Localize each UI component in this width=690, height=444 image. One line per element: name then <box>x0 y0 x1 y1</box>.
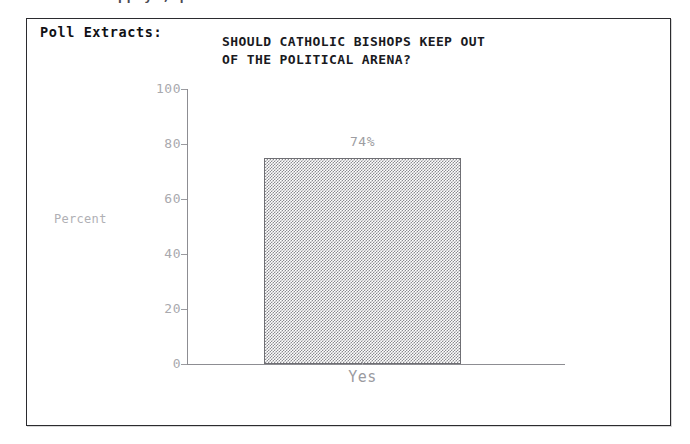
y-tick-label-20: 20 <box>141 301 181 316</box>
bar-value-label-yes: 74% <box>264 134 461 149</box>
plot-area: Percent 100 80 60 40 20 0 74% <box>0 0 690 444</box>
y-tick-mark-0 <box>181 364 187 365</box>
y-axis-line <box>187 89 188 365</box>
y-tick-label-0: 0 <box>141 356 181 371</box>
y-tick-0: 0 <box>129 364 181 365</box>
y-tick-mark-80 <box>181 144 187 145</box>
y-tick-40: 40 <box>129 254 181 255</box>
y-tick-80: 80 <box>129 144 181 145</box>
y-tick-mark-100 <box>181 89 187 90</box>
x-category-label-yes: Yes <box>264 368 461 386</box>
y-tick-100: 100 <box>129 89 181 90</box>
y-tick-label-40: 40 <box>141 246 181 261</box>
y-axis-title: Percent <box>54 212 107 226</box>
y-tick-mark-40 <box>181 254 187 255</box>
y-tick-label-100: 100 <box>141 81 181 96</box>
poll-extract-figure: pp y , p Poll Extracts: SHOULD CATHOLIC … <box>0 0 690 444</box>
y-tick-mark-20 <box>181 309 187 310</box>
y-tick-label-80: 80 <box>141 136 181 151</box>
x-axis-line <box>187 364 565 365</box>
x-tick-mark-yes <box>362 359 363 365</box>
y-tick-20: 20 <box>129 309 181 310</box>
y-tick-mark-60 <box>181 199 187 200</box>
bar-yes <box>264 158 461 364</box>
y-tick-60: 60 <box>129 199 181 200</box>
y-tick-label-60: 60 <box>141 191 181 206</box>
